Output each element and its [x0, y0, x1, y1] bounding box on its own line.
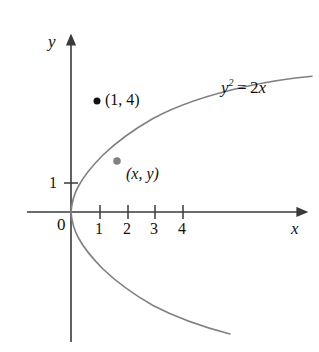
- x-tick-label-3: 3: [150, 221, 158, 237]
- equation-base: y: [221, 78, 229, 97]
- point-label-1-4: (1, 4): [105, 92, 140, 108]
- equation-variable: x: [258, 78, 266, 97]
- point-label-x-y: (x, y): [126, 166, 159, 182]
- y-tick-label-1: 1: [49, 175, 57, 191]
- x-tick-label-2: 2: [123, 221, 131, 237]
- point-marker-x-y: [113, 157, 121, 165]
- point-label-1-4-text: (1, 4): [105, 91, 140, 108]
- plot-canvas: [0, 0, 319, 352]
- parabola-figure: y x 0 1 1 2 3 4 (1, 4) (x, y) y2 = 2x: [0, 0, 319, 352]
- x-tick-label-1: 1: [95, 221, 103, 237]
- origin-label: 0: [57, 216, 66, 233]
- y-axis-label: y: [48, 33, 56, 50]
- equation-operator: =: [234, 78, 250, 97]
- equation-operator-text: =: [237, 78, 247, 97]
- equation-label: y2 = 2x: [221, 79, 266, 96]
- x-axis-label: x: [291, 220, 299, 237]
- point-marker-1-4: [94, 98, 101, 105]
- x-tick-label-4: 4: [178, 221, 186, 237]
